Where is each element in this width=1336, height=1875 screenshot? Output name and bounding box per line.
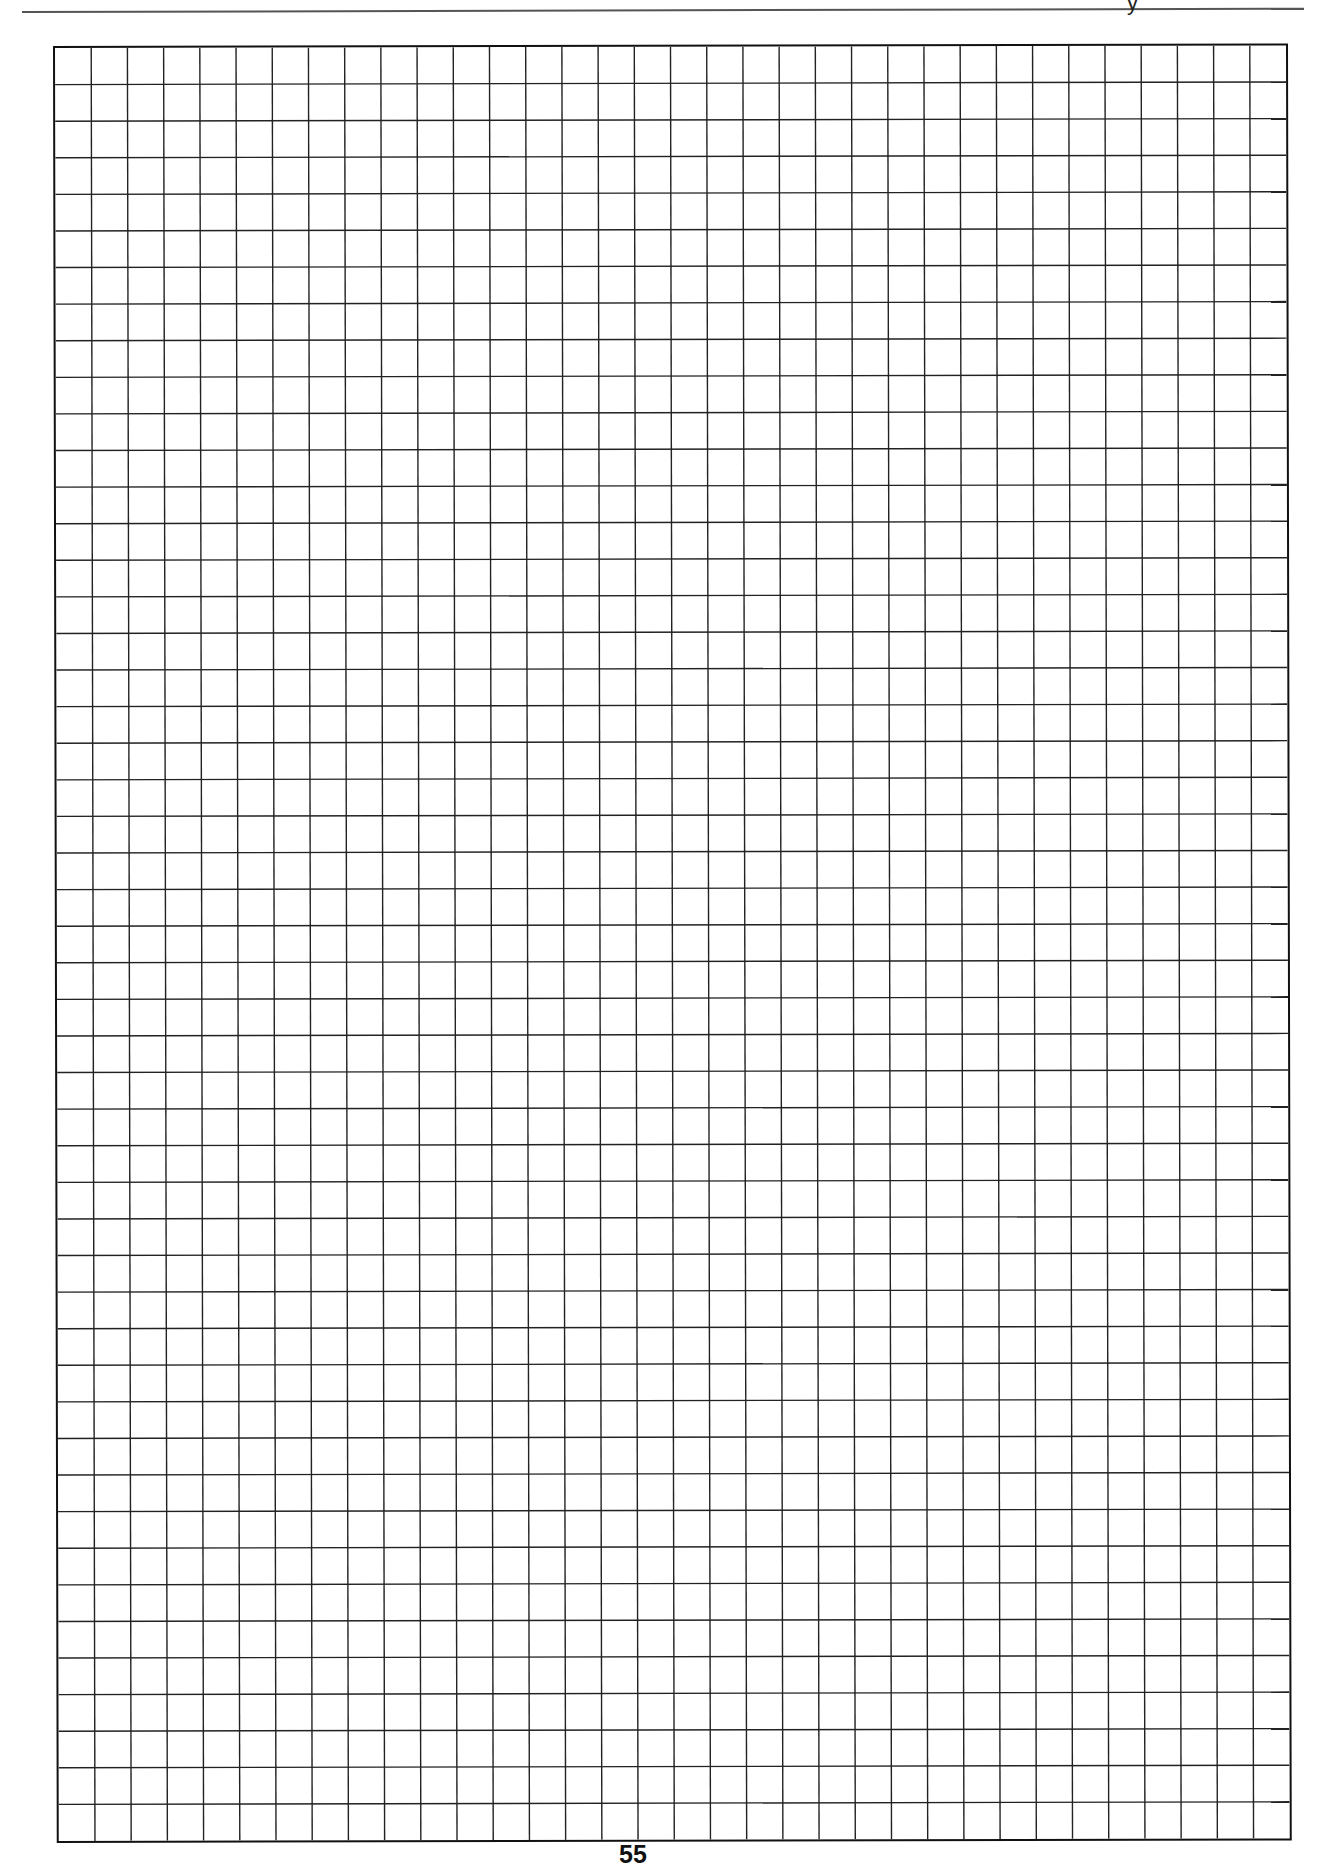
grid-lines bbox=[55, 45, 1290, 1841]
header-text-fragment: y bbox=[1127, 0, 1138, 16]
header-rule bbox=[22, 8, 1304, 13]
graph-paper-grid bbox=[53, 43, 1292, 1843]
page-number: 55 bbox=[619, 1840, 647, 1869]
